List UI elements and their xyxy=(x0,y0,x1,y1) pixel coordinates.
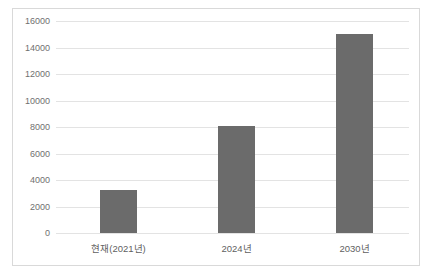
y-axis-tick-label: 4000 xyxy=(30,176,50,185)
y-axis-tick-label: 8000 xyxy=(30,123,50,132)
gridline-16000: 16000 xyxy=(56,21,409,22)
x-axis-category-label: 2030년 xyxy=(339,244,369,254)
bar-category-0[interactable]: 현재(2021년) xyxy=(100,190,137,233)
bar-category-2[interactable]: 2030년 xyxy=(336,34,373,233)
chart-frame: 16000 14000 12000 10000 8000 6000 4000 2… xyxy=(12,8,420,266)
y-axis-tick-label: 12000 xyxy=(25,70,50,79)
y-axis-tick-label: 6000 xyxy=(30,149,50,158)
gridline-0-baseline: 0 xyxy=(56,233,409,234)
y-axis-tick-label: 14000 xyxy=(25,43,50,52)
bar-category-1[interactable]: 2024년 xyxy=(218,126,255,233)
x-axis-category-label: 2024년 xyxy=(221,244,251,254)
x-axis-category-label: 현재(2021년) xyxy=(91,244,145,254)
y-axis-tick-label: 10000 xyxy=(25,96,50,105)
plot-area: 16000 14000 12000 10000 8000 6000 4000 2… xyxy=(56,21,409,233)
y-axis-tick-label: 16000 xyxy=(25,17,50,26)
y-axis-tick-label: 2000 xyxy=(30,202,50,211)
y-axis-tick-label: 0 xyxy=(45,229,50,238)
